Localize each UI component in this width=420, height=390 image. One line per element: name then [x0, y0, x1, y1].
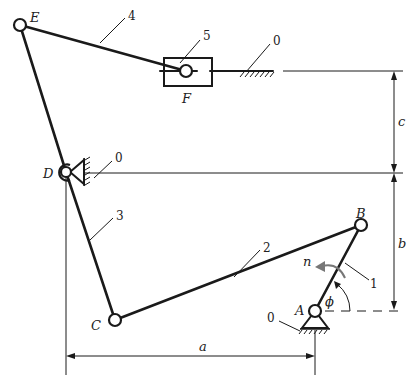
- label-ground-0-A: 0: [267, 311, 275, 325]
- svg-text:n: n: [303, 254, 311, 269]
- joint-C: [109, 314, 121, 326]
- label-D: D: [42, 166, 54, 181]
- joint-D: [61, 167, 71, 177]
- svg-text:a: a: [199, 339, 207, 354]
- svg-text:ϕ: ϕ: [325, 294, 334, 309]
- ground-slider-guide: [160, 71, 274, 77]
- dimension-b: b: [391, 173, 406, 310]
- label-link-5: 5: [203, 29, 211, 43]
- label-link-2: 2: [263, 241, 271, 255]
- dimension-c: c: [391, 71, 406, 173]
- label-link-4: 4: [128, 9, 136, 23]
- leader-lines: [90, 18, 369, 331]
- label-F: F: [181, 91, 192, 106]
- label-A: A: [294, 303, 304, 318]
- svg-text:b: b: [398, 236, 406, 251]
- dimension-a: a: [66, 178, 315, 375]
- label-ground-0-D: 0: [115, 151, 123, 165]
- link-4-EF: [20, 25, 186, 71]
- joint-A: [309, 305, 321, 317]
- label-C: C: [91, 318, 101, 333]
- label-link-1: 1: [370, 277, 378, 291]
- label-link-3: 3: [116, 209, 124, 223]
- joint-E: [14, 19, 26, 31]
- linkage-diagram: c b a: [0, 0, 420, 390]
- link-3-ED: [20, 25, 66, 172]
- svg-text:c: c: [398, 114, 406, 129]
- label-B: B: [355, 206, 366, 221]
- label-E: E: [29, 10, 40, 25]
- joint-F: [180, 65, 192, 77]
- link-3-DC: [66, 172, 115, 320]
- label-ground-0-top: 0: [273, 34, 281, 48]
